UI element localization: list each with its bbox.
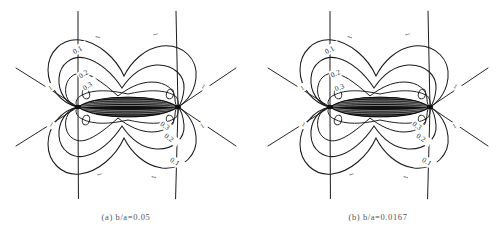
caption-cell-b: (b) b/a=0.0167: [252, 198, 504, 233]
diagram-a: 0.1 0.2 0.3 0.1: [0, 0, 252, 200]
loop-upper-right-b: [417, 88, 427, 100]
cusp-left-a: [75, 105, 81, 109]
panel-row: 0.1 0.2 0.3 0.1: [0, 0, 504, 200]
figure-panel-a: 0.1 0.2 0.3 0.1: [0, 0, 252, 200]
caption-row: (a) b/a=0.05 (b) b/a=0.0167: [0, 198, 504, 233]
cusp-left-b: [327, 105, 333, 109]
cusp-right-b: [427, 105, 433, 109]
conductor-lens-a: [78, 97, 178, 117]
caption-a: (a) b/a=0.05: [102, 212, 151, 222]
caption-b: (b) b/a=0.0167: [349, 212, 408, 222]
loop-lower-left-b: [333, 114, 343, 126]
loop-upper-right-a: [165, 88, 175, 100]
conductor-lens-b: [330, 97, 430, 117]
diagram-b: 0.1 0.2 0.3 0.1: [252, 0, 504, 200]
figure-root: 0.1 0.2 0.3 0.1: [0, 0, 504, 233]
cusp-right-a: [175, 105, 181, 109]
figure-panel-b: 0.1 0.2 0.3 0.1: [252, 0, 504, 200]
caption-cell-a: (a) b/a=0.05: [0, 198, 252, 233]
loop-lower-left-a: [81, 114, 91, 126]
